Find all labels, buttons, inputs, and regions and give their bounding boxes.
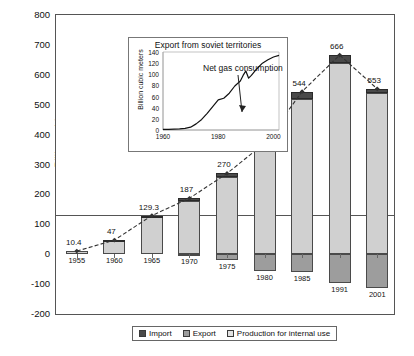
legend-item-production: Production for internal use [227, 329, 330, 338]
chart-container: Billion cubic meters 8007006005004003002… [0, 0, 414, 356]
y-tick-label: -200 [8, 308, 50, 319]
legend-label-production: Production for internal use [237, 329, 330, 338]
legend-swatch-production [227, 330, 234, 337]
legend-label-export: Export [193, 329, 216, 338]
legend-label-import: Import [149, 329, 172, 338]
y-tick-label: -100 [8, 278, 50, 289]
y-tick-label: 0 [8, 248, 50, 259]
legend-swatch-export [183, 330, 190, 337]
y-tick-label: 700 [8, 38, 50, 49]
y-tick-label: 800 [8, 9, 50, 20]
chart-legend: Import Export Production for internal us… [132, 326, 337, 341]
y-tick-label: 100 [8, 218, 50, 229]
plot-area: 10.447129.3187270371544666553 1955196019… [55, 14, 395, 315]
annotation-arrow [56, 15, 394, 314]
y-tick-label: 500 [8, 98, 50, 109]
legend-item-export: Export [183, 329, 216, 338]
y-tick-label: 400 [8, 128, 50, 139]
y-tick-label: 200 [8, 188, 50, 199]
legend-swatch-import [139, 330, 146, 337]
y-tick-label: 600 [8, 68, 50, 79]
legend-item-import: Import [139, 329, 172, 338]
y-tick-label: 300 [8, 158, 50, 169]
